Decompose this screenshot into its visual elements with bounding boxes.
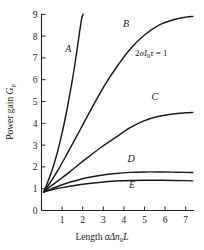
y-tick-label-5: 5 [33, 97, 38, 107]
curve-label-a: A [64, 43, 72, 54]
x-tick-label-4: 4 [122, 215, 127, 225]
curve-label-c: C [151, 91, 158, 102]
x-axis-title-tail: L [122, 232, 128, 242]
annotation-equals: = 1 [153, 48, 167, 58]
y-tick-label-4: 4 [33, 119, 38, 129]
figure-container: 0123456789 1234567 ABCDE 2σI0τ = 1 Lengt… [0, 0, 204, 250]
x-axis-title-sigma: σΔn [105, 232, 120, 242]
curve-group [44, 14, 193, 192]
x-axis-title: Length σΔn0L [76, 232, 129, 243]
x-tick-label-2: 2 [80, 215, 85, 225]
y-tick-label-0: 0 [33, 206, 38, 216]
x-axis-title-main: Length [76, 232, 105, 242]
x-tick-label-1: 1 [60, 215, 65, 225]
curve-label-d: D [126, 153, 135, 164]
curve-e [44, 180, 193, 192]
y-axis-title-sub: p [9, 84, 16, 88]
y-tick-label-9: 9 [33, 10, 38, 20]
y-axis-title-main: Power gain [5, 94, 15, 139]
y-axis-tick-labels: 0123456789 [33, 10, 38, 216]
y-tick-label-2: 2 [33, 162, 38, 172]
curve-label-e: E [128, 179, 135, 190]
annotation-saturation: 2σI0τ = 1 [135, 48, 168, 59]
y-axis-title: Power gain Gp [5, 84, 16, 140]
x-axis-tick-labels: 1234567 [60, 215, 189, 225]
y-tick-label-8: 8 [33, 32, 38, 42]
y-tick-label-6: 6 [33, 75, 38, 85]
y-tick-label-7: 7 [33, 53, 38, 63]
curve-label-b: B [123, 18, 129, 29]
y-axis-ticks [42, 14, 46, 210]
x-tick-label-7: 7 [183, 215, 188, 225]
chart-plot: 0123456789 1234567 ABCDE 2σI0τ = 1 Lengt… [0, 0, 204, 250]
x-tick-label-5: 5 [142, 215, 147, 225]
x-axis-ticks [62, 207, 186, 211]
y-tick-label-1: 1 [33, 184, 38, 194]
x-tick-label-6: 6 [163, 215, 168, 225]
y-tick-label-3: 3 [33, 141, 38, 151]
x-tick-label-3: 3 [101, 215, 106, 225]
